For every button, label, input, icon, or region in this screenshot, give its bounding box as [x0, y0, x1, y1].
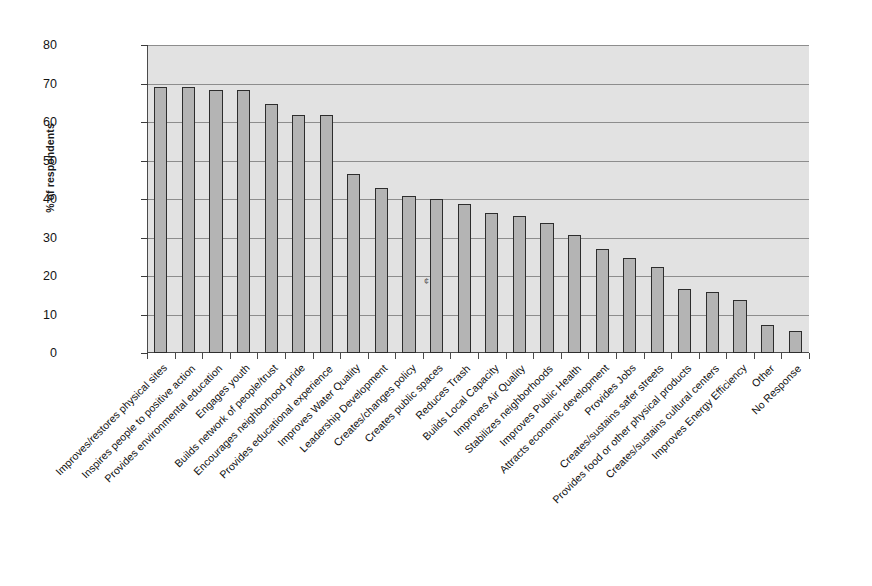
- x-axis-label: Improves Public Health: [497, 362, 583, 448]
- bar: [568, 235, 581, 353]
- x-axis-label: Builds Local Capacity: [420, 362, 501, 443]
- bar: [651, 267, 664, 353]
- y-tick-mark: [141, 238, 148, 239]
- bar: [789, 331, 802, 353]
- bar: [320, 115, 333, 353]
- x-tick-mark: [754, 353, 755, 359]
- bar: [540, 223, 553, 353]
- x-tick-mark: [257, 353, 258, 359]
- x-tick-mark: [644, 353, 645, 359]
- y-tick-label: 20: [17, 269, 57, 283]
- bar: [292, 115, 305, 353]
- bar-chart-figure: % of respondents 01020304050607080 Impro…: [0, 0, 872, 586]
- x-tick-mark: [368, 353, 369, 359]
- x-tick-mark: [175, 353, 176, 359]
- bar: [485, 213, 498, 353]
- y-tick-mark: [141, 161, 148, 162]
- x-tick-mark: [313, 353, 314, 359]
- x-axis-label: Provides Jobs: [582, 362, 638, 418]
- x-axis-label: Attracts economic development: [497, 362, 611, 476]
- y-tick-mark: [141, 276, 148, 277]
- y-tick-mark: [141, 315, 148, 316]
- x-axis-label: Leadership Development: [297, 362, 390, 455]
- bar: [596, 249, 609, 353]
- bar: [430, 199, 443, 353]
- bar: [265, 104, 278, 353]
- y-tick-label: 50: [17, 154, 57, 168]
- y-tick-mark: [141, 353, 148, 354]
- x-axis-label: Provides environmental education: [102, 362, 224, 484]
- bar: [678, 289, 691, 353]
- x-tick-mark: [285, 353, 286, 359]
- y-tick-label: 40: [17, 192, 57, 206]
- bar: [513, 216, 526, 353]
- x-axis-label: Other: [749, 362, 776, 389]
- x-axis-label: Improves Water Quality: [275, 362, 362, 449]
- bar: [347, 174, 360, 353]
- x-tick-mark: [423, 353, 424, 359]
- x-axis-label: Encourages neighborhood pride: [191, 362, 307, 478]
- x-tick-mark: [202, 353, 203, 359]
- bar: [458, 204, 471, 353]
- x-axis-label: Improves Air Quality: [451, 362, 527, 438]
- bar: [237, 90, 250, 353]
- x-axis-ticks: [147, 353, 809, 360]
- x-tick-mark: [395, 353, 396, 359]
- y-tick-mark: [141, 199, 148, 200]
- x-tick-mark: [478, 353, 479, 359]
- bar: [761, 325, 774, 353]
- y-tick-label: 10: [17, 308, 57, 322]
- bar: [182, 87, 195, 353]
- x-axis-label: Inspires people to positive action: [79, 362, 197, 480]
- x-tick-mark: [340, 353, 341, 359]
- x-axis-label: Creates/sustains safer streets: [557, 362, 666, 471]
- x-axis-label: Improves Energy Efficiency: [649, 362, 749, 462]
- x-tick-mark: [588, 353, 589, 359]
- x-tick-mark: [450, 353, 451, 359]
- x-axis-label: Engages youth: [193, 362, 252, 421]
- x-axis-label: Creates public spaces: [362, 362, 445, 445]
- y-tick-label: 80: [17, 38, 57, 52]
- x-axis-label: Creates/changes policy: [331, 362, 418, 449]
- x-axis-label: Provides food or other physical products: [550, 362, 694, 506]
- y-tick-label: 0: [17, 346, 57, 360]
- bar: [623, 258, 636, 353]
- x-axis-label: Provides educational experience: [217, 362, 335, 480]
- bar: [402, 196, 415, 353]
- y-tick-mark: [141, 45, 148, 46]
- x-tick-mark: [506, 353, 507, 359]
- bars-layer: [147, 45, 809, 353]
- y-tick-label: 70: [17, 77, 57, 91]
- bar: [375, 188, 388, 353]
- x-axis-label: Stabilizes neighborhoods: [462, 362, 555, 455]
- y-tick-mark: [141, 84, 148, 85]
- x-tick-mark: [781, 353, 782, 359]
- x-axis-label: Reduces Trash: [413, 362, 472, 421]
- y-tick-label: 60: [17, 115, 57, 129]
- scan-artifact-speck: ¢: [424, 276, 429, 286]
- x-tick-mark: [809, 353, 810, 359]
- x-axis-label: Improves/restores physical sites: [53, 362, 169, 478]
- x-axis-label: Creates/sustains cultural centers: [603, 362, 721, 480]
- x-tick-mark: [616, 353, 617, 359]
- bar: [154, 87, 167, 353]
- bar: [706, 292, 719, 353]
- y-tick-label: 30: [17, 231, 57, 245]
- x-tick-mark: [561, 353, 562, 359]
- x-tick-mark: [726, 353, 727, 359]
- x-axis-label: Builds network of people/trust: [172, 362, 280, 470]
- x-tick-mark: [699, 353, 700, 359]
- bar: [733, 300, 746, 354]
- x-axis-label: No Response: [749, 362, 803, 416]
- x-tick-mark: [533, 353, 534, 359]
- y-tick-mark: [141, 122, 148, 123]
- x-tick-mark: [230, 353, 231, 359]
- x-tick-mark: [671, 353, 672, 359]
- bar: [209, 90, 222, 353]
